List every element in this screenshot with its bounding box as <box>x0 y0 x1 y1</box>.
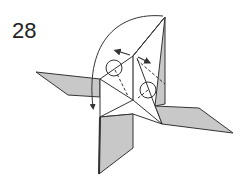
bottom-flap <box>99 114 133 174</box>
arrow-left-icon <box>117 51 130 55</box>
origami-diagram <box>0 0 249 187</box>
right-flap <box>155 106 233 133</box>
center-body <box>100 17 165 124</box>
left-flap <box>36 72 100 97</box>
